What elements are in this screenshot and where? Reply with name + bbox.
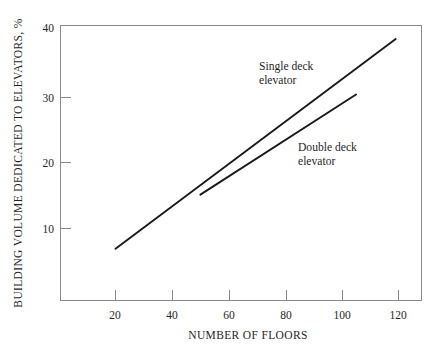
annotation-double-deck-elevator: Double deck elevator bbox=[298, 141, 357, 168]
x-tick-labels: 20 40 60 80 100 120 bbox=[109, 309, 407, 321]
x-axis-title: NUMBER OF FLOORS bbox=[188, 329, 307, 341]
plot-frame bbox=[61, 26, 422, 301]
y-axis-title: BUILDING VOLUME DEDICATED TO ELEVATORS, … bbox=[12, 18, 25, 307]
x-axis-ticks bbox=[116, 290, 399, 301]
y-tick-label-40: 40 bbox=[43, 22, 55, 34]
y-tick-label-10: 10 bbox=[43, 223, 55, 235]
x-tick-label-20: 20 bbox=[109, 309, 121, 321]
y-axis-ticks bbox=[61, 98, 71, 229]
y-tick-label-30: 30 bbox=[43, 92, 55, 104]
chart-figure: 40 30 20 10 20 40 60 80 100 120 NUMBER O… bbox=[0, 0, 439, 348]
x-tick-label-100: 100 bbox=[333, 309, 351, 321]
line-chart: 40 30 20 10 20 40 60 80 100 120 NUMBER O… bbox=[0, 0, 439, 348]
x-tick-label-60: 60 bbox=[223, 309, 235, 321]
y-tick-labels: 40 30 20 10 bbox=[43, 22, 55, 235]
annotation-single-deck-elevator: Single deck elevator bbox=[259, 60, 313, 87]
x-tick-label-40: 40 bbox=[166, 309, 178, 321]
x-tick-label-120: 120 bbox=[389, 309, 407, 321]
x-tick-label-80: 80 bbox=[280, 309, 292, 321]
y-tick-label-20: 20 bbox=[43, 157, 55, 169]
